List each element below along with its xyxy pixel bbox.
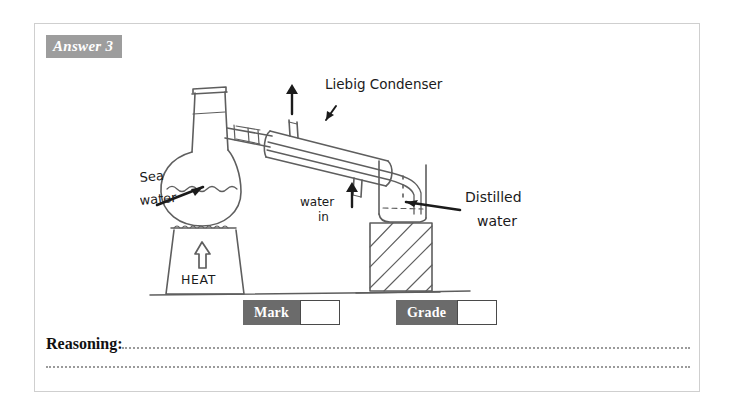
annotation-sea-water-line2: water — [140, 190, 178, 208]
reasoning-row: Reasoning: — [46, 335, 690, 353]
annotation-sea-water-line1: Sea — [140, 168, 164, 185]
liebig-label-arrowhead — [326, 111, 334, 120]
annotation-distilled-water-line2: water — [477, 213, 517, 229]
condenser-cap-right — [386, 161, 392, 186]
support-block-hatching — [370, 223, 432, 291]
condenser-jacket-top — [270, 131, 388, 161]
mark-field: Mark — [243, 300, 340, 325]
mark-label: Mark — [243, 300, 300, 325]
heat-arrow-icon — [195, 242, 210, 268]
condenser-jacket-bottom — [266, 157, 386, 186]
annotation-heat-label: HEAT — [181, 272, 216, 287]
annotation-water-in-line1: water — [300, 195, 334, 209]
reasoning-line-1[interactable] — [122, 346, 690, 349]
reasoning-label: Reasoning: — [46, 335, 122, 353]
water-out-arrowhead — [286, 84, 298, 94]
reasoning-line-2[interactable] — [46, 365, 690, 368]
condenser-inner-tube-bottom — [267, 150, 390, 180]
flask-neck-left — [192, 93, 195, 152]
distillation-diagram-svg: Sea water Liebig Condenser water in Dist… — [140, 62, 560, 297]
beaker-base — [379, 214, 426, 222]
grade-input[interactable] — [457, 300, 497, 325]
annotation-distilled-water-line1: Distilled — [465, 189, 522, 205]
answer-card: Answer 3 — [34, 23, 700, 392]
distillation-diagram: Sea water Liebig Condenser water in Dist… — [140, 62, 560, 297]
mark-input[interactable] — [300, 300, 340, 325]
distillate-level — [383, 208, 423, 209]
grade-label: Grade — [396, 300, 457, 325]
flask-neck-right — [225, 92, 228, 150]
sidearm-bottom — [225, 138, 270, 147]
grade-field: Grade — [396, 300, 497, 325]
annotation-water-in-line2: in — [318, 210, 329, 224]
annotation-liebig-condenser: Liebig Condenser — [325, 76, 443, 92]
answer-number-tag: Answer 3 — [46, 35, 122, 58]
water-in-arrowhead — [346, 182, 358, 192]
